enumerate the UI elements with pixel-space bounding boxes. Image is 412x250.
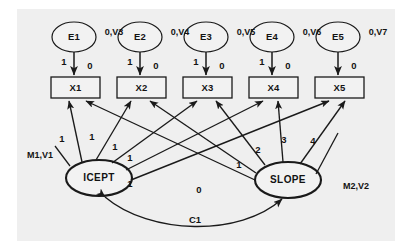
residual-param-e1: 0,V3 <box>105 28 124 37</box>
loading-weight-slope-x5: 4 <box>310 136 315 146</box>
latent-param-icept: M1,V1 <box>27 151 53 160</box>
indicator-intercept-x3: 0 <box>219 61 224 71</box>
latent-param-slope: M2,V2 <box>343 182 369 191</box>
residual-label-e3: E3 <box>200 32 212 42</box>
loading-weight-icept-x3: 1 <box>112 142 117 152</box>
loading-weight-icept-x1: 1 <box>59 134 64 144</box>
loading-weight-icept-x5: 1 <box>127 179 132 189</box>
residual-label-e4: E4 <box>266 32 278 42</box>
residual-loading-e2: 1 <box>127 57 132 67</box>
loading-weight-slope-x3: 2 <box>255 145 260 155</box>
residual-label-e1: E1 <box>68 32 80 42</box>
latent-label-icept: ICEPT <box>83 173 114 183</box>
indicator-intercept-x5: 0 <box>351 61 356 71</box>
indicator-label-x2: X2 <box>135 83 147 93</box>
figure-canvas: E1 E2 E3 E4 E5 0,V3 0,V4 0,V5 0,V6 0,V7 … <box>0 0 412 250</box>
loading-weight-slope-x4: 3 <box>281 135 286 145</box>
indicator-label-x4: X4 <box>267 83 279 93</box>
indicator-label-x5: X5 <box>333 83 345 93</box>
loading-weight-icept-x2: 1 <box>89 132 94 142</box>
indicator-label-x1: X1 <box>69 83 81 93</box>
residual-param-e4: 0,V6 <box>303 28 322 37</box>
latent-label-slope: SLOPE <box>270 175 306 185</box>
residual-param-e2: 0,V4 <box>171 28 190 37</box>
residual-loading-e3: 1 <box>193 57 198 67</box>
loading-weight-slope-x2: 1 <box>236 160 241 170</box>
covariance-label-c1: C1 <box>189 215 201 225</box>
indicator-label-x3: X3 <box>201 83 213 93</box>
indicator-intercept-x4: 0 <box>285 61 290 71</box>
residual-loading-e1: 1 <box>61 57 66 67</box>
residual-loading-e4: 1 <box>259 57 264 67</box>
residual-label-e2: E2 <box>134 32 146 42</box>
loading-weight-icept-x4: 1 <box>127 153 132 163</box>
residual-param-e5: 0,V7 <box>369 28 388 37</box>
indicator-intercept-x1: 0 <box>87 61 92 71</box>
residual-param-e3: 0,V5 <box>237 28 256 37</box>
indicator-intercept-x2: 0 <box>153 61 158 71</box>
residual-label-e5: E5 <box>332 32 344 42</box>
loading-weight-slope-x1: 0 <box>196 185 201 195</box>
